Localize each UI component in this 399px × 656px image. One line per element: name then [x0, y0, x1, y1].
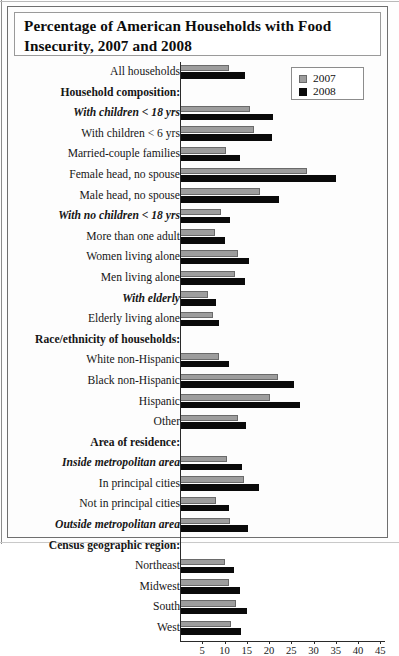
title-box: Percentage of American Households with F…: [14, 12, 381, 56]
bar-2007: [180, 456, 227, 463]
plot-area: All householdsHousehold composition:With…: [0, 62, 399, 532]
chart-row: With children < 6 yrs: [0, 124, 399, 145]
bar-2007: [180, 559, 225, 566]
chart-row: Elderly living alone: [0, 309, 399, 330]
bar-2007: [180, 188, 260, 195]
category-label: In principal cities: [99, 474, 180, 495]
chart-row: Married-couple families: [0, 144, 399, 165]
category-label: Race/ethnicity of households:: [35, 330, 180, 351]
page-edge-top: [0, 1, 399, 2]
bar-2007: [180, 621, 231, 628]
x-tick-label: 30: [304, 645, 324, 656]
x-tick-label: 45: [370, 645, 390, 656]
bar-2008: [180, 299, 216, 306]
bar-2007: [180, 147, 226, 154]
bar-2008: [180, 155, 240, 162]
category-label: Married-couple families: [68, 144, 180, 165]
bar-2007: [180, 600, 236, 607]
bar-2008: [180, 402, 300, 409]
legend: 2007 2008: [291, 67, 364, 100]
bar-2007: [180, 209, 221, 216]
x-tick-label: 20: [259, 645, 279, 656]
category-label: Inside metropolitan area: [62, 453, 180, 474]
category-label: Male head, no spouse: [80, 186, 180, 207]
chart-row: Not in principal cities: [0, 494, 399, 515]
bar-2007: [180, 126, 254, 133]
chart-row: Black non-Hispanic: [0, 371, 399, 392]
category-label: With no children < 18 yrs: [58, 206, 180, 227]
category-label: Men living alone: [101, 268, 180, 289]
bar-2008: [180, 72, 245, 79]
chart-row: Hispanic: [0, 392, 399, 413]
bar-2008: [180, 381, 294, 388]
bar-2008: [180, 484, 259, 491]
chart-row: Area of residence:: [0, 433, 399, 454]
chart-row: Race/ethnicity of households:: [0, 330, 399, 351]
bar-2007: [180, 168, 307, 175]
category-label: More than one adult: [86, 227, 180, 248]
bar-2007: [180, 291, 208, 298]
chart-row: Male head, no spouse: [0, 186, 399, 207]
category-label: With children < 18 yrs: [73, 103, 180, 124]
bar-2008: [180, 608, 247, 615]
chart-title: Percentage of American Households with F…: [24, 16, 376, 56]
category-label: All households: [110, 62, 180, 83]
chart-row: White non-Hispanic: [0, 350, 399, 371]
bar-2007: [180, 476, 244, 483]
bar-2008: [180, 628, 241, 635]
bar-2008: [180, 464, 242, 471]
legend-swatch-2007-icon: [299, 75, 307, 83]
category-label: Female head, no spouse: [69, 165, 180, 186]
category-label: Elderly living alone: [88, 309, 180, 330]
x-tick: [291, 641, 292, 644]
x-tick: [336, 641, 337, 644]
bar-2007: [180, 394, 270, 401]
bar-2007: [180, 229, 215, 236]
bar-2007: [180, 518, 230, 525]
bar-2008: [180, 505, 229, 512]
x-tick: [314, 641, 315, 644]
chart-row: Women living alone: [0, 247, 399, 268]
chart-row: Northeast: [0, 556, 399, 577]
bar-2008: [180, 422, 246, 429]
x-tick: [202, 641, 203, 644]
chart-row: South: [0, 597, 399, 618]
category-label: West: [157, 618, 180, 639]
category-label: Northeast: [135, 556, 180, 577]
chart-row: Men living alone: [0, 268, 399, 289]
x-tick: [225, 641, 226, 644]
bar-2007: [180, 250, 238, 257]
bar-2007: [180, 579, 229, 586]
bar-2008: [180, 114, 273, 121]
chart-row: Other: [0, 412, 399, 433]
chart-row: Outside metropolitan area: [0, 515, 399, 536]
y-axis-line: [180, 62, 181, 641]
bar-2008: [180, 217, 230, 224]
x-tick: [380, 641, 381, 644]
x-tick-label: 25: [281, 645, 301, 656]
x-tick-label: 5: [192, 645, 212, 656]
x-tick-label: 40: [348, 645, 368, 656]
legend-swatch-2008-icon: [299, 88, 307, 96]
bar-2008: [180, 258, 249, 265]
bar-2008: [180, 196, 279, 203]
bar-2007: [180, 353, 219, 360]
bar-2008: [180, 320, 219, 327]
chart-row: More than one adult: [0, 227, 399, 248]
bar-2008: [180, 134, 272, 141]
bar-2007: [180, 65, 229, 72]
bar-2008: [180, 525, 248, 532]
category-label: Other: [154, 412, 180, 433]
chart-row: Census geographic region:: [0, 536, 399, 557]
bar-2008: [180, 587, 240, 594]
x-tick-label: 35: [326, 645, 346, 656]
x-tick: [247, 641, 248, 644]
chart-row: With elderly: [0, 289, 399, 310]
chart-row: Inside metropolitan area: [0, 453, 399, 474]
legend-label-2007: 2007: [313, 72, 336, 85]
category-label: White non-Hispanic: [86, 350, 180, 371]
category-label: Hispanic: [139, 392, 180, 413]
category-label: Black non-Hispanic: [88, 371, 180, 392]
bar-2008: [180, 278, 245, 285]
category-label: Women living alone: [86, 247, 180, 268]
